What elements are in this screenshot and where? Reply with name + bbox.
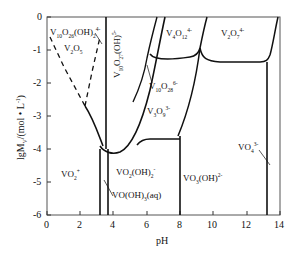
label-v4o12: V4O124- bbox=[166, 29, 192, 38]
y-axis-label: lgMV/(mol • L-1) bbox=[16, 95, 26, 160]
label-vo2-plus: VO2+ bbox=[61, 170, 80, 179]
x-tick-4: 4 bbox=[110, 220, 115, 230]
label-vooh3-aq: VO(OH)3(aq) bbox=[112, 191, 161, 200]
y-tick-1: -1 bbox=[33, 45, 41, 55]
x-tick-6: 6 bbox=[144, 220, 149, 230]
label-v10o27oh: V10O27(OH)5- bbox=[113, 30, 122, 78]
label-vo3oh: VO3(OH)2- bbox=[183, 174, 222, 183]
label-v2o5: V2O5 bbox=[64, 44, 83, 53]
vo4-pointer bbox=[259, 150, 270, 165]
y-ticks bbox=[47, 17, 51, 215]
x-tick-12: 12 bbox=[241, 220, 251, 230]
x-tick-2: 2 bbox=[77, 220, 82, 230]
label-v2o7: V2O74- bbox=[221, 29, 244, 38]
x-tick-10: 10 bbox=[207, 220, 217, 230]
x-tick-14: 14 bbox=[274, 220, 284, 230]
y-tick-2: -2 bbox=[33, 78, 41, 88]
y-tick-3: -3 bbox=[33, 111, 41, 121]
label-vo4: VO43- bbox=[238, 143, 258, 152]
y-tick-4: -4 bbox=[33, 144, 41, 154]
label-v10o28: V10O286- bbox=[149, 82, 178, 91]
x-tick-0: 0 bbox=[44, 220, 49, 230]
label-vo2oh2: VO2(OH)2- bbox=[116, 168, 155, 177]
y-tick-0: 0 bbox=[37, 12, 42, 22]
y-tick-5: -5 bbox=[33, 177, 41, 187]
vo2-boundary-curve bbox=[85, 106, 103, 146]
x-tick-8: 8 bbox=[177, 220, 182, 230]
v2o7-right-boundary bbox=[270, 17, 278, 55]
x-axis-label: pH bbox=[156, 236, 168, 246]
label-v10o26oh2: V10O26(OH)24- bbox=[50, 28, 100, 37]
label-v3o9: V3O93- bbox=[147, 107, 170, 116]
y-tick-6: -6 bbox=[33, 210, 41, 220]
x-ticks bbox=[47, 211, 280, 215]
v3o9-lower-boundary bbox=[137, 139, 180, 145]
v2o7-lower-boundary bbox=[200, 48, 270, 62]
